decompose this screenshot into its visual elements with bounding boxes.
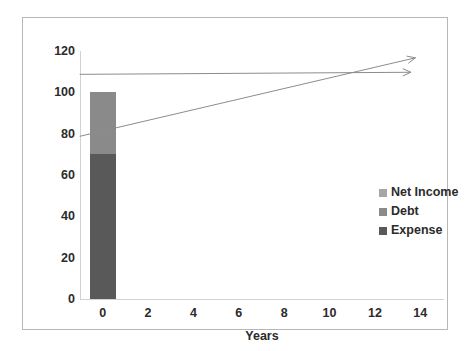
- legend-item: Expense: [379, 221, 471, 240]
- x-axis-tick-label: 14: [405, 307, 435, 320]
- y-axis-tick-label: 0: [41, 293, 75, 306]
- y-axis-tick-label: 40: [41, 210, 75, 223]
- x-axis-line: [80, 299, 444, 300]
- y-axis-tick-label: 60: [41, 169, 75, 182]
- y-axis-tick-label: 20: [41, 252, 75, 265]
- x-axis-tick-label: 4: [178, 307, 208, 320]
- x-axis-tick-label: 2: [133, 307, 163, 320]
- y-axis-tick-labels: 020406080100120: [37, 51, 75, 300]
- chart-legend: Net IncomeDebtExpense: [379, 183, 471, 240]
- y-axis-tick-label: 120: [41, 45, 75, 58]
- chart-frame: 020406080100120 02468101214 Years Net In…: [22, 17, 448, 330]
- legend-swatch-icon: [379, 189, 387, 197]
- y-axis-tick-label: 100: [41, 86, 75, 99]
- legend-item: Debt: [379, 202, 471, 221]
- bar-segment-debt: [90, 92, 116, 154]
- x-axis-tick-label: 6: [224, 307, 254, 320]
- x-axis-title: Years: [80, 329, 444, 343]
- legend-swatch-icon: [379, 227, 387, 235]
- legend-swatch-icon: [379, 208, 387, 216]
- y-axis-tick-label: 80: [41, 128, 75, 141]
- legend-item-label: Expense: [391, 224, 442, 237]
- legend-item: Net Income: [379, 183, 471, 202]
- x-axis-tick-label: 0: [88, 307, 118, 320]
- x-axis-tick-label: 10: [315, 307, 345, 320]
- plot-area: [80, 51, 443, 299]
- legend-item-label: Debt: [391, 205, 419, 218]
- bar-segment-expense: [90, 154, 116, 299]
- x-axis-tick-label: 12: [360, 307, 390, 320]
- x-axis-tick-labels: 02468101214: [80, 307, 444, 325]
- x-axis-tick-label: 8: [269, 307, 299, 320]
- legend-item-label: Net Income: [391, 186, 458, 199]
